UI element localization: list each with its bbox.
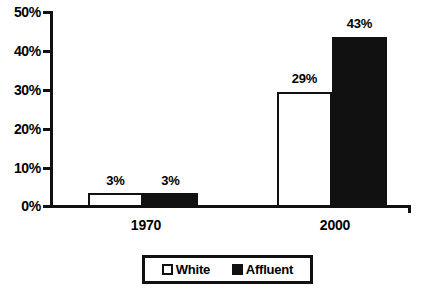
- x-axis-endcap-tick: [408, 205, 411, 213]
- legend-entry-white: White: [162, 263, 210, 276]
- y-axis-label-40: 40%: [0, 44, 41, 58]
- bar-value-2000-white: 29%: [276, 72, 333, 85]
- hollow-square-icon: [162, 264, 173, 275]
- bar-value-1970-white: 3%: [87, 174, 144, 187]
- bar-1970-affluent: [143, 193, 198, 207]
- bar-1970-white: [88, 193, 143, 207]
- y-axis-tick-40: [43, 50, 51, 53]
- y-axis-tick-50: [43, 11, 51, 14]
- y-axis-label-50: 50%: [0, 5, 41, 19]
- x-axis-category-2000: 2000: [302, 218, 368, 232]
- legend-entry-affluent: Affluent: [232, 263, 294, 276]
- y-axis-label-20: 20%: [0, 122, 41, 136]
- bar-2000-white: [277, 92, 332, 207]
- y-axis-label-0: 0%: [0, 199, 41, 213]
- y-axis-label-30: 30%: [0, 83, 41, 97]
- bar-2000-affluent: [332, 37, 387, 207]
- chart-legend: White Affluent: [142, 255, 313, 284]
- legend-label-affluent: Affluent: [246, 263, 294, 276]
- y-axis-tick-20: [43, 128, 51, 131]
- y-axis-label-10: 10%: [0, 161, 41, 175]
- bar-chart: 50% 40% 30% 20% 10% 0% 1970 2000 3% 3% 2…: [0, 0, 429, 292]
- x-axis-category-1970: 1970: [113, 218, 179, 232]
- filled-square-icon: [232, 264, 243, 275]
- bar-value-1970-affluent: 3%: [142, 174, 199, 187]
- legend-label-white: White: [176, 263, 210, 276]
- y-axis-line: [50, 11, 53, 208]
- bar-value-2000-affluent: 43%: [331, 17, 388, 30]
- y-axis-tick-30: [43, 89, 51, 92]
- y-axis-tick-10: [43, 167, 51, 170]
